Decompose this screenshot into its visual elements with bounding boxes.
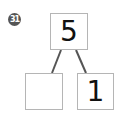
right-connector — [76, 50, 86, 73]
known-part-box: 1 — [77, 73, 114, 110]
left-connector — [52, 50, 61, 73]
missing-part-box[interactable] — [25, 73, 63, 110]
whole-number-box: 5 — [50, 13, 88, 50]
